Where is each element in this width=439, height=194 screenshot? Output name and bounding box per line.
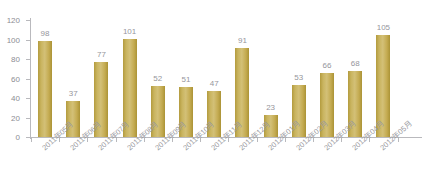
chart-title — [110, 0, 340, 4]
y-tick-label: 120 — [7, 16, 20, 25]
y-tick-label: 60 — [11, 74, 20, 83]
bar-value-label: 77 — [97, 50, 106, 59]
bar-value-label: 23 — [266, 103, 275, 112]
y-tick-label: 100 — [7, 35, 20, 44]
y-tick: 120 — [26, 20, 31, 21]
y-tick: 60 — [26, 79, 31, 80]
bar-chart: 020406080100120 983777101525147912353666… — [0, 0, 439, 194]
bar-value-label: 91 — [238, 36, 247, 45]
bar-value-label: 68 — [351, 59, 360, 68]
bar-value-label: 53 — [294, 73, 303, 82]
bar-value-label: 51 — [182, 75, 191, 84]
bar-value-label: 105 — [377, 23, 390, 32]
y-tick-label: 0 — [16, 133, 20, 142]
y-tick: 20 — [26, 118, 31, 119]
y-tick-label: 20 — [11, 113, 20, 122]
bar-value-label: 47 — [210, 79, 219, 88]
y-tick: 80 — [26, 59, 31, 60]
y-tick-label: 40 — [11, 94, 20, 103]
x-tick — [31, 138, 32, 142]
bar-value-label: 52 — [153, 74, 162, 83]
y-tick: 40 — [26, 98, 31, 99]
y-tick-label: 80 — [11, 55, 20, 64]
y-tick: 100 — [26, 40, 31, 41]
bar[interactable]: 98 — [38, 41, 52, 137]
bar-value-label: 37 — [69, 89, 78, 98]
bar-value-label: 66 — [323, 61, 332, 70]
plot-area: 020406080100120 983777101525147912353666… — [30, 20, 428, 137]
bar-value-label: 101 — [123, 27, 136, 36]
bar-value-label: 98 — [41, 29, 50, 38]
